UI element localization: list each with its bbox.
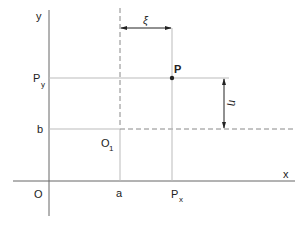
px-label: P [171,188,178,200]
origin-label: O [34,188,43,200]
xi-label: ξ [143,14,149,27]
point-p-label: P [174,63,181,75]
o1-subscript: 1 [109,144,114,153]
point-p-marker [170,76,174,80]
coordinate-diagram: y x O ξ η P P y b a P x O 1 [0,0,308,225]
py-subscript: y [41,80,45,89]
y-axis-label: y [36,10,42,22]
eta-label: η [227,100,239,106]
py-label: P [33,72,40,84]
a-label: a [116,187,123,199]
b-label: b [37,123,43,135]
x-axis-label: x [283,168,289,180]
px-subscript: x [179,195,183,204]
